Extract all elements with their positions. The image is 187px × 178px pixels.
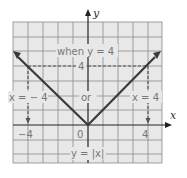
y-axis-label: y xyxy=(92,7,100,20)
y-axis-arrow-icon xyxy=(85,9,91,16)
annotation-when: when y = 4 xyxy=(57,46,114,57)
tick-origin: 0 xyxy=(77,129,83,140)
x-axis-arrow-icon xyxy=(165,122,172,128)
x-axis-label: x xyxy=(170,109,177,122)
function-label: y = |x| xyxy=(71,148,104,160)
graph: when y = 4 4 x = − 4 or x = 4 −4 0 4 y =… xyxy=(0,0,187,178)
tick-y-4: 4 xyxy=(78,61,84,72)
tick-x-neg4: −4 xyxy=(18,129,33,140)
label-x-4: x = 4 xyxy=(132,92,159,103)
tick-x-4: 4 xyxy=(142,129,148,140)
label-x-neg4: x = − 4 xyxy=(9,92,48,103)
label-or: or xyxy=(81,92,92,103)
